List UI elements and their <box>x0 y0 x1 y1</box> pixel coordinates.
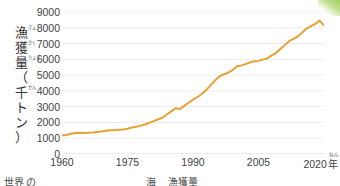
caption-text-1: の <box>26 177 36 186</box>
caption-item-3: ぎょかくりょう 漁獲量 <box>168 174 198 186</box>
x-tick-text-1975: 1975 <box>116 156 139 168</box>
caption-item-2: かい 海 <box>146 174 156 186</box>
x-tick-label-1975: 1975 <box>116 156 139 168</box>
y-tick-label-5000: 5000 <box>26 69 60 81</box>
x-tick-label-2020: 2020ねん年 <box>303 156 337 171</box>
x-tick-text-1960: 1960 <box>50 156 73 168</box>
caption-text-3: 漁獲量 <box>168 177 198 186</box>
x-tick-text-1990: 1990 <box>181 156 204 168</box>
chart-caption: せかい 世界 の かい 海 ぎょかくりょう 漁獲量 <box>0 174 340 186</box>
series-line-world-catch <box>62 21 324 136</box>
x-axis-unit-label: ねん年 <box>328 159 338 170</box>
y-tick-label-9000: 9000 <box>26 6 60 18</box>
x-tick-label-1960: 1960 <box>50 156 73 168</box>
gridlines <box>62 12 324 154</box>
chart-root: 漁 ぎょ 獲 かく 量 りょう （ 千 せん ト ン ） 01000200030… <box>0 0 340 186</box>
plot-area <box>62 12 324 154</box>
line-chart-svg <box>62 12 324 154</box>
x-tick-text-2020: 2020 <box>303 158 326 170</box>
y-tick-label-4000: 4000 <box>26 85 60 97</box>
caption-item-1: の <box>26 174 36 186</box>
caption-text-2: 海 <box>146 177 156 186</box>
x-tick-label-1990: 1990 <box>181 156 204 168</box>
y-tick-label-7000: 7000 <box>26 38 60 50</box>
y-tick-label-6000: 6000 <box>26 53 60 65</box>
y-tick-label-3000: 3000 <box>26 101 60 113</box>
caption-item-0: せかい 世界 <box>4 174 24 186</box>
x-tick-label-2005: 2005 <box>247 156 270 168</box>
y-tick-label-8000: 8000 <box>26 22 60 34</box>
y-tick-label-1000: 1000 <box>26 132 60 144</box>
x-axis-unit-ruby: ねん <box>329 153 339 158</box>
x-tick-text-2005: 2005 <box>247 156 270 168</box>
x-axis-tick-labels: 19601975199020052020ねん年 <box>0 156 340 172</box>
caption-text-0: 世界 <box>4 177 24 186</box>
y-tick-label-2000: 2000 <box>26 116 60 128</box>
